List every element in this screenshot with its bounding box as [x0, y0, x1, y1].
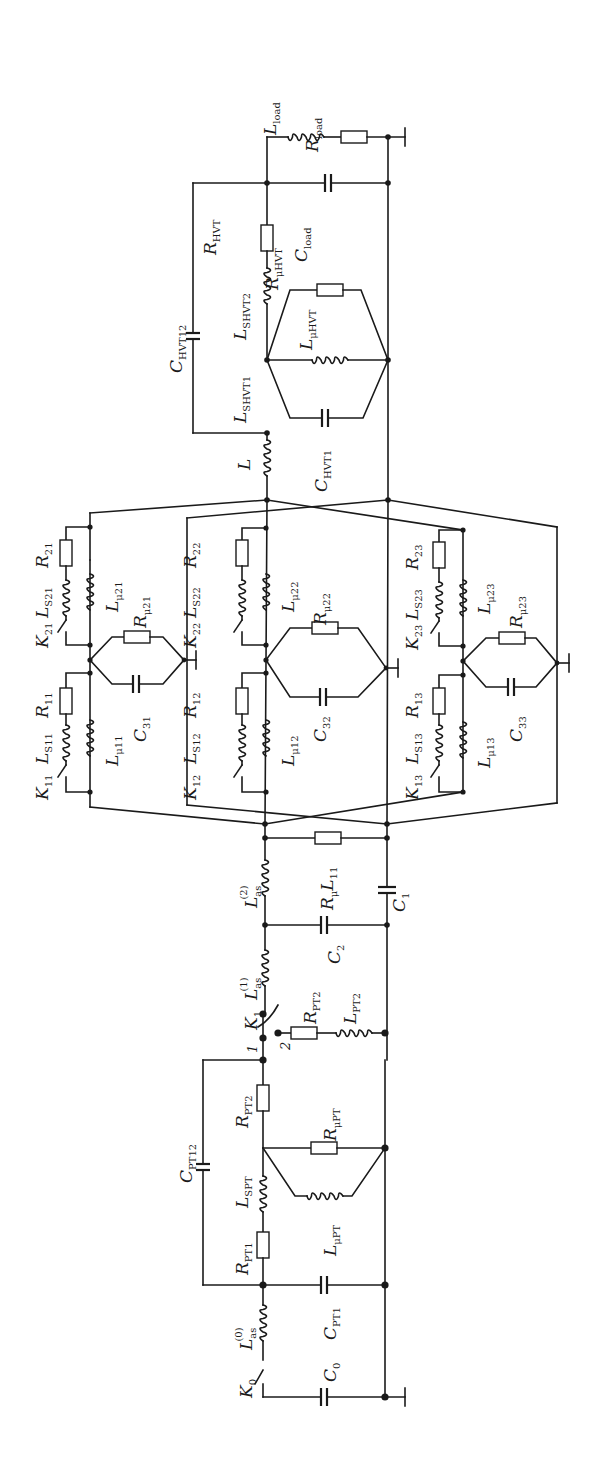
winding-column-2	[234, 525, 398, 794]
label-L-SHVT1: LSHVT1	[230, 376, 252, 424]
label-L-muPT: LμPT	[320, 1224, 342, 1257]
label-L-S12: LS12	[180, 733, 202, 765]
resistor-R-PT2-branch-icon	[291, 1027, 317, 1039]
component-labels: Lload Rload Cload RHVT RμHVT LSHVT2 CHVT…	[32, 102, 528, 1399]
label-L-as2: Las(2)	[238, 885, 263, 909]
label-L-mu11: Lμ11	[102, 735, 124, 767]
label-R-mu23: Rμ23	[506, 596, 528, 629]
label-L-muHVT: LμHVT	[296, 309, 318, 351]
label-C-PT1: CPT1	[320, 1307, 342, 1340]
label-R-muL11: RμL11	[317, 867, 339, 911]
label-L-S21: LS21	[32, 587, 54, 619]
load-section	[186, 128, 405, 500]
label-K11: K11	[32, 775, 54, 801]
label-K1-pos2: 2	[278, 1042, 293, 1051]
label-L-as0: Las(0)	[233, 1327, 258, 1351]
inductor-L-SPT-icon	[260, 1176, 267, 1212]
label-L-SPT: LSPT	[232, 1176, 254, 1209]
label-L-S22: LS22	[180, 587, 202, 619]
label-L-S11: LS11	[32, 733, 54, 765]
label-C33: C33	[506, 716, 528, 742]
label-C-HVT1: CHVT1	[311, 450, 333, 492]
label-R-mu21: Rμ21	[130, 596, 152, 629]
label-K22: K22	[180, 623, 202, 649]
label-R-muHVT: RμHVT	[262, 248, 284, 291]
label-R21: R21	[32, 542, 54, 569]
resistor-R-HVT-icon	[261, 225, 273, 251]
label-K0: K0	[236, 1379, 258, 1399]
inductor-L-icon	[264, 440, 271, 476]
resistor-R-muHVT-icon	[317, 284, 343, 296]
winding-column-3	[431, 527, 569, 794]
label-L-S13: LS13	[402, 733, 424, 765]
circuit-diagram: Lload Rload Cload RHVT RμHVT LSHVT2 CHVT…	[0, 0, 605, 1472]
label-L-mu23: Lμ23	[474, 583, 496, 615]
label-K12: K12	[180, 775, 202, 801]
label-L-as1: Las(1)	[238, 977, 263, 1001]
label-C31: C31	[130, 716, 152, 742]
label-K1-pos1: 1	[245, 1045, 260, 1053]
label-R11: R11	[32, 692, 54, 719]
label-R12: R12	[180, 692, 202, 719]
label-R-PT1: RPT1	[232, 1242, 254, 1276]
label-L-mu21: Lμ21	[102, 581, 124, 613]
resistor-R-PT1-icon	[257, 1232, 269, 1258]
label-R22: R22	[180, 542, 202, 569]
label-C2: C2	[324, 945, 346, 964]
source-section	[196, 824, 405, 1406]
label-R23: R23	[402, 544, 424, 571]
label-L-mu12: Lμ12	[278, 735, 300, 767]
label-K21: K21	[32, 623, 54, 649]
label-L-mu13: Lμ13	[474, 737, 496, 769]
label-R-muPT: RμPT	[320, 1108, 342, 1142]
label-L-SHVT2: LSHVT2	[230, 293, 252, 341]
label-C32: C32	[310, 716, 332, 742]
resistor-R-muPT-icon	[311, 1142, 337, 1154]
label-K1: K1	[241, 1011, 263, 1031]
label-C0: C0	[320, 1363, 342, 1382]
resistor-R-muL11-icon	[315, 832, 341, 844]
label-L-load: Lload	[260, 102, 282, 136]
label-R-PT2: RPT2	[232, 1095, 254, 1129]
winding-column-1	[58, 524, 196, 794]
label-R-HVT: RHVT	[200, 219, 222, 256]
label-L: L	[234, 459, 254, 471]
label-C1: C1	[389, 893, 411, 912]
label-L-PT2: LPT2	[340, 993, 362, 1025]
label-R-PT2-branch: RPT2	[300, 991, 322, 1025]
inductor-L-muHVT-icon	[312, 357, 348, 364]
inductor-L-as0-icon	[260, 1305, 267, 1341]
label-C-HVT12: CHVT12	[166, 325, 188, 373]
inductor-L-PT2-icon	[336, 1030, 372, 1037]
inductor-L-muPT-icon	[307, 1193, 343, 1200]
resistor-R-PT2-icon	[257, 1085, 269, 1111]
label-R-mu22: Rμ22	[310, 593, 332, 626]
transformer-block	[58, 497, 569, 827]
label-R13: R13	[402, 692, 424, 719]
label-K13: K13	[402, 775, 424, 801]
label-K23: K23	[402, 625, 424, 651]
label-L-mu22: Lμ22	[278, 581, 300, 613]
resistor-R-load-icon	[341, 131, 367, 143]
label-C-load: Cload	[291, 227, 313, 262]
label-C-PT12: CPT12	[176, 1144, 198, 1183]
label-L-S23: LS23	[402, 589, 424, 621]
